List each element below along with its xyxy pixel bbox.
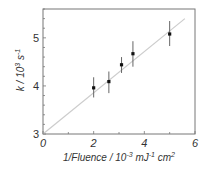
data-point [131,41,134,66]
x-tick-label: 6 [192,137,199,149]
x-axis-label: 1/Fluence / 10-3 mJ-1 cm2 [63,151,175,163]
plot-area [43,9,195,134]
point-marker [131,52,134,55]
point-marker [92,86,95,89]
x-tick-label: 2 [90,137,97,149]
y-tick-label: 5 [33,32,39,44]
data-point [168,21,171,46]
point-marker [168,32,171,35]
point-marker [107,80,110,83]
x-tick-label: 4 [141,137,147,149]
x-tick-label: 0 [40,137,47,149]
point-marker [120,63,123,66]
y-tick-label: 3 [33,128,39,140]
fit-line [43,19,185,134]
y-axis-label: k / 103 s-1 [14,49,26,91]
scatter-chart: 0246345 1/Fluence / 10-3 mJ-1 cm2 k / 10… [0,0,208,172]
tick-labels: 0246345 [33,32,199,149]
data-point [107,72,110,94]
y-tick-label: 4 [33,80,39,92]
